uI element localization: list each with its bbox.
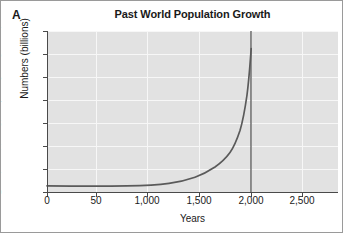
y-tick-label: 0 <box>0 188 1 198</box>
y-tick-mark <box>43 54 47 55</box>
y-tick-label: 5 <box>0 73 1 83</box>
x-tick-label: 50 <box>73 196 119 206</box>
y-tick-label: 4 <box>0 96 1 106</box>
population-curve-svg <box>47 31 338 192</box>
y-axis-line <box>47 31 48 193</box>
x-tick-label: 2,000 <box>228 196 274 206</box>
chart-title: Past World Population Growth <box>47 8 338 20</box>
x-tick-label: 1,000 <box>124 196 170 206</box>
x-tick-label: 1,500 <box>176 196 222 206</box>
y-tick-mark <box>43 146 47 147</box>
y-tick-mark <box>43 123 47 124</box>
plot-area <box>47 31 338 192</box>
y-tick-mark <box>43 169 47 170</box>
y-tick-label: 1 <box>0 165 1 175</box>
x-tick-label: 2,500 <box>279 196 325 206</box>
y-tick-mark <box>43 77 47 78</box>
population-curve <box>47 49 251 187</box>
y-tick-label: 2 <box>0 142 1 152</box>
y-tick-label: 3 <box>0 119 1 129</box>
y-axis-label: Numbers (billions) <box>19 0 30 129</box>
y-tick-mark <box>43 100 47 101</box>
y-tick-mark <box>43 31 47 32</box>
x-tick-label: 0 <box>24 196 70 206</box>
x-axis-line <box>47 192 338 193</box>
figure-panel: A Past World Population Growth Numbers (… <box>0 0 343 233</box>
y-tick-label: 6 <box>0 50 1 60</box>
y-tick-label: 7 <box>0 27 1 37</box>
x-axis-label: Years <box>47 213 338 224</box>
